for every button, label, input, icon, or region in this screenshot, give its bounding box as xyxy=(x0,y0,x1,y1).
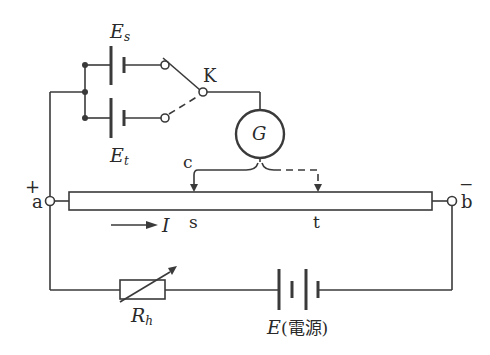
slide-wire xyxy=(46,192,457,210)
rheostat xyxy=(120,266,177,302)
label-galvanometer: G xyxy=(252,125,266,143)
circuit-drawing xyxy=(0,0,490,355)
standard-cell-es xyxy=(85,46,169,85)
label-rheostat: Rh xyxy=(131,306,153,327)
label-point-t: t xyxy=(313,214,320,231)
label-contact-c: c xyxy=(183,154,193,171)
bottom-wire xyxy=(50,206,452,290)
label-current-i: I xyxy=(162,216,170,235)
label-es: Es xyxy=(110,22,130,43)
label-terminal-a: a xyxy=(32,193,43,211)
label-switch-k: K xyxy=(203,67,216,85)
cell-junction xyxy=(82,62,88,121)
left-wire xyxy=(50,92,85,290)
label-et: Et xyxy=(110,146,129,167)
label-point-s: s xyxy=(189,214,198,231)
sliding-contact xyxy=(190,170,322,192)
current-arrow xyxy=(111,221,158,229)
potentiometer-circuit-diagram: Es Et K G c + a − b s t I Rh E(電源) xyxy=(0,0,490,355)
test-cell-et xyxy=(85,98,169,138)
power-source-battery xyxy=(279,269,318,310)
label-power-source: E(電源) xyxy=(267,318,328,337)
label-terminal-b: b xyxy=(461,193,473,211)
